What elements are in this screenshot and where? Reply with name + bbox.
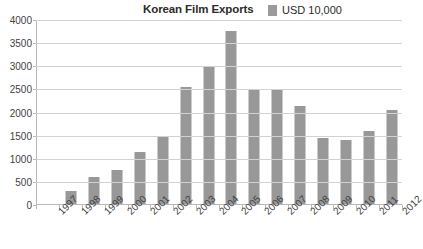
x-tick-label: 2009 bbox=[331, 209, 339, 217]
y-tick-mark bbox=[33, 159, 36, 160]
chart-header: Korean Film Exports USD 10,000 bbox=[0, 2, 405, 20]
x-tick-label: 1997 bbox=[56, 209, 64, 217]
y-tick-mark bbox=[33, 66, 36, 67]
y-tick-label: 1500 bbox=[10, 130, 32, 141]
chart-legend: USD 10,000 bbox=[268, 4, 342, 16]
x-tick-label: 2008 bbox=[308, 209, 316, 217]
y-tick-mark bbox=[33, 113, 36, 114]
y-tick-mark bbox=[33, 20, 36, 21]
gridline bbox=[36, 136, 402, 137]
y-tick-label: 1000 bbox=[10, 153, 32, 164]
y-tick-label: 3000 bbox=[10, 61, 32, 72]
y-tick-mark bbox=[33, 89, 36, 90]
x-tick-label: 2012 bbox=[400, 209, 408, 217]
gridline bbox=[36, 66, 402, 67]
legend-item-label: USD 10,000 bbox=[282, 4, 342, 16]
x-tick-label: 2003 bbox=[194, 209, 202, 217]
y-tick-label: 0 bbox=[26, 200, 32, 211]
x-tick-label: 2000 bbox=[125, 209, 133, 217]
x-tick-label: 2001 bbox=[148, 209, 156, 217]
x-tick-label: 2005 bbox=[239, 209, 247, 217]
x-tick-label: 2004 bbox=[217, 209, 225, 217]
gridline bbox=[36, 113, 402, 114]
bar[interactable] bbox=[226, 31, 237, 205]
x-tick-label: 2002 bbox=[171, 209, 179, 217]
gridline bbox=[36, 43, 402, 44]
x-tick-label: 2011 bbox=[377, 209, 385, 217]
gridline bbox=[36, 159, 402, 160]
x-tick-label: 1998 bbox=[79, 209, 87, 217]
x-tick-label: 1999 bbox=[102, 209, 110, 217]
legend-swatch-icon bbox=[268, 5, 277, 16]
gridline bbox=[36, 89, 402, 90]
y-tick-label: 2500 bbox=[10, 84, 32, 95]
chart-title: Korean Film Exports bbox=[143, 3, 254, 15]
y-tick-mark bbox=[33, 182, 36, 183]
bar[interactable] bbox=[180, 87, 191, 205]
y-tick-label: 2000 bbox=[10, 107, 32, 118]
x-tick-label: 2007 bbox=[285, 209, 293, 217]
y-axis: 40003500300025002000150010005000 bbox=[0, 20, 36, 205]
y-tick-label: 500 bbox=[15, 176, 32, 187]
y-tick-label: 3500 bbox=[10, 38, 32, 49]
y-tick-mark bbox=[33, 43, 36, 44]
gridline bbox=[36, 20, 402, 21]
bar[interactable] bbox=[386, 110, 397, 205]
x-tick-label: 2010 bbox=[354, 209, 362, 217]
gridline bbox=[36, 182, 402, 183]
x-tick-label: 2006 bbox=[262, 209, 270, 217]
bar[interactable] bbox=[249, 89, 260, 205]
bar[interactable] bbox=[272, 90, 283, 205]
plot-area bbox=[36, 20, 402, 205]
bar[interactable] bbox=[295, 106, 306, 205]
y-tick-mark bbox=[33, 136, 36, 137]
y-tick-label: 4000 bbox=[10, 15, 32, 26]
plot-wrapper: 40003500300025002000150010005000 1997199… bbox=[0, 20, 405, 249]
x-axis: 1997199819992000200120022003200420052006… bbox=[36, 209, 402, 249]
